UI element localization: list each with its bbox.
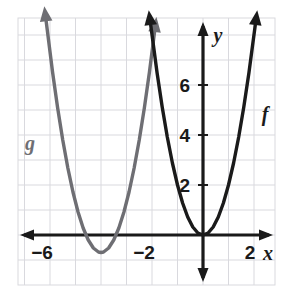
y-tick-label-6: 6 bbox=[179, 75, 190, 96]
y-axis-name-label: y bbox=[212, 24, 223, 47]
x-axis-name-label: x bbox=[262, 242, 273, 264]
parabola-graph-figure: −6 −2 2 2 4 6 x y g f bbox=[0, 0, 291, 298]
x-tick-label-neg6: −6 bbox=[31, 242, 53, 263]
y-tick-label-2: 2 bbox=[179, 175, 190, 196]
graph-canvas: −6 −2 2 2 4 6 x y g f bbox=[0, 0, 291, 298]
y-tick-label-4: 4 bbox=[179, 125, 190, 146]
x-tick-label-neg2: −2 bbox=[133, 242, 155, 263]
x-tick-label-2: 2 bbox=[245, 242, 256, 263]
curve-label-g: g bbox=[24, 132, 35, 155]
